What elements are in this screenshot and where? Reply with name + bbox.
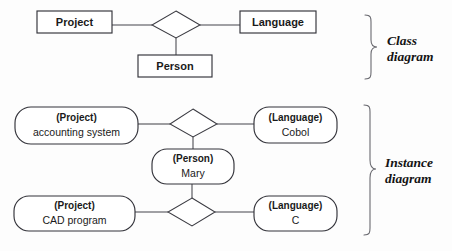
class-relationship-diamond[interactable] (152, 11, 200, 38)
project-instance-cad-type: (Project) (54, 200, 95, 211)
instance-diagram-caption-line2: diagram (385, 171, 433, 187)
language-instance-cobol-value: Cobol (282, 126, 309, 138)
language-instance-c-type: (Language) (269, 200, 323, 211)
diagram-canvas: Project Language Person (0, 0, 452, 251)
instance-relationship-diamond-bottom[interactable] (168, 198, 215, 226)
instance-diagram-caption-line1: Instance (385, 155, 433, 171)
project-instance-accounting-value: accounting system (33, 126, 120, 138)
er-diagram-figure: Project Language Person (0, 0, 452, 251)
project-instance-accounting-type: (Project) (56, 112, 97, 123)
instance-diagram-brace (364, 105, 376, 235)
class-diagram-caption: Class diagram (387, 33, 434, 65)
language-instance-c-value: C (292, 214, 300, 226)
project-class-box[interactable]: Project (37, 11, 112, 33)
instance-relationship-diamond-top-shape (170, 109, 217, 137)
instance-relationship-diamond-bottom-shape (168, 198, 215, 226)
instance-relationship-diamond-top[interactable] (170, 109, 217, 137)
person-instance-mary[interactable]: (Person) Mary (152, 149, 234, 184)
person-instance-mary-value: Mary (181, 167, 205, 179)
person-class-box[interactable]: Person (138, 55, 212, 77)
person-class-box-label: Person (156, 60, 194, 72)
language-class-box-label: Language (252, 16, 304, 28)
class-relationship-diamond-shape (152, 11, 200, 38)
instance-diagram-caption: Instance diagram (385, 155, 433, 187)
person-instance-mary-type: (Person) (173, 153, 214, 164)
section-braces (364, 15, 377, 235)
language-class-box[interactable]: Language (240, 11, 316, 33)
project-class-box-label: Project (56, 16, 94, 28)
instance-diagram-group: (Project) accounting system (Language) C… (14, 107, 337, 231)
project-instance-cad[interactable]: (Project) CAD program (14, 196, 135, 231)
class-diagram-caption-line2: diagram (387, 49, 434, 65)
language-instance-c[interactable]: (Language) C (254, 196, 337, 231)
class-diagram-group: Project Language Person (37, 11, 316, 77)
language-instance-cobol[interactable]: (Language) Cobol (254, 107, 337, 143)
project-instance-cad-value: CAD program (42, 214, 106, 226)
language-instance-cobol-type: (Language) (269, 112, 323, 123)
class-diagram-caption-line1: Class (387, 33, 434, 49)
project-instance-accounting[interactable]: (Project) accounting system (15, 107, 138, 144)
class-diagram-brace (365, 15, 377, 79)
